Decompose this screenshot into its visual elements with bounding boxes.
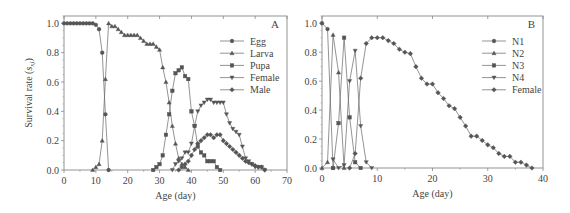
data-point-diamond-icon xyxy=(403,50,408,55)
x-tick-label: 0 xyxy=(320,173,325,184)
data-point-circle-icon xyxy=(97,27,101,31)
data-point-square-icon xyxy=(180,66,184,70)
legend-label: Female xyxy=(250,72,280,83)
series-group xyxy=(62,21,267,172)
series-n2 xyxy=(320,33,346,170)
legend-label: Egg xyxy=(250,36,266,47)
panel-label: A xyxy=(271,18,279,30)
data-point-circle-icon xyxy=(94,23,98,27)
legend-label: Male xyxy=(250,84,271,95)
y-tick-label: 0.4 xyxy=(305,105,318,116)
data-point-square-icon xyxy=(171,89,175,93)
data-point-circle-icon xyxy=(104,112,108,116)
data-point-square-icon xyxy=(158,162,162,166)
data-point-triangle-up-icon xyxy=(161,65,165,69)
data-point-square-icon xyxy=(164,133,168,137)
panel-label: B xyxy=(528,18,535,30)
chart-panel-a: 010203040506070Age (day)0.00.20.40.60.81… xyxy=(23,16,292,202)
data-point-square-icon xyxy=(161,154,165,158)
y-axis: 0.00.20.40.60.81.0 xyxy=(305,16,323,174)
figure-canvas: 010203040506070Age (day)0.00.20.40.60.81… xyxy=(0,0,570,213)
legend-label: N1 xyxy=(512,36,524,47)
data-point-triangle-up-icon xyxy=(107,21,111,25)
data-point-triangle-up-icon xyxy=(164,80,168,84)
legend-label: Female xyxy=(512,84,542,95)
y-tick-label: 0.2 xyxy=(305,134,318,145)
data-point-diamond-icon xyxy=(458,115,463,120)
x-tick-label: 50 xyxy=(218,175,228,186)
data-point-circle-icon xyxy=(100,51,104,55)
data-point-diamond-icon xyxy=(347,166,352,171)
data-point-diamond-icon xyxy=(380,35,385,40)
data-point-triangle-down-icon xyxy=(199,104,203,108)
data-point-triangle-up-icon xyxy=(173,142,177,146)
data-point-square-icon xyxy=(167,112,171,116)
legend-item-female: Female xyxy=(482,84,542,95)
data-point-triangle-down-icon xyxy=(331,158,335,162)
data-point-circle-icon xyxy=(326,27,330,31)
data-point-square-icon xyxy=(337,121,341,125)
legend-label: N2 xyxy=(512,48,524,59)
legend: EggLarvaPupaFemaleMale xyxy=(220,36,280,96)
series-pupa xyxy=(151,66,221,172)
x-axis-title: Age (day) xyxy=(155,190,195,202)
legend-label: N4 xyxy=(512,72,524,83)
data-point-triangle-down-icon xyxy=(237,133,241,137)
data-point-diamond-icon xyxy=(530,166,535,171)
series-egg xyxy=(62,21,110,171)
y-tick-label: 0.0 xyxy=(47,165,60,176)
legend-item-n4: N4 xyxy=(482,72,524,83)
legend-item-pupa: Pupa xyxy=(220,60,271,71)
data-point-square-icon xyxy=(359,166,363,170)
legend-square-icon xyxy=(492,64,496,68)
data-point-diamond-icon xyxy=(218,132,223,137)
data-point-triangle-down-icon xyxy=(240,145,244,149)
legend-label: Larva xyxy=(250,48,274,59)
data-point-diamond-icon xyxy=(375,35,380,40)
legend: N1N2N3N4Female xyxy=(482,36,542,96)
data-point-square-icon xyxy=(212,159,216,163)
data-point-diamond-icon xyxy=(189,153,194,158)
y-tick-label: 0.8 xyxy=(47,47,60,58)
legend-circle-icon xyxy=(492,39,496,43)
legend-square-icon xyxy=(230,64,234,68)
x-tick-label: 20 xyxy=(123,175,133,186)
legend-item-female: Female xyxy=(220,72,280,83)
x-tick-label: 20 xyxy=(428,173,438,184)
legend-item-n2: N2 xyxy=(482,48,524,59)
data-point-square-icon xyxy=(186,77,190,81)
data-point-square-icon xyxy=(218,168,222,172)
figure: 010203040506070Age (day)0.00.20.40.60.81… xyxy=(0,0,570,213)
legend-item-male: Male xyxy=(220,84,271,95)
data-point-triangle-up-icon xyxy=(100,139,104,143)
data-point-square-icon xyxy=(342,36,346,40)
series-female xyxy=(347,35,534,170)
legend-item-n3: N3 xyxy=(482,60,524,71)
data-point-diamond-icon xyxy=(469,134,474,139)
y-tick-label: 0.0 xyxy=(305,163,318,174)
x-axis-title: Age (day) xyxy=(412,188,452,200)
data-point-diamond-icon xyxy=(430,82,435,87)
y-tick-label: 0.6 xyxy=(305,76,318,87)
x-tick-label: 10 xyxy=(91,175,101,186)
data-point-diamond-icon xyxy=(358,76,363,81)
data-point-triangle-up-icon xyxy=(97,162,101,166)
x-tick-label: 40 xyxy=(538,173,548,184)
data-point-diamond-icon xyxy=(519,160,524,165)
x-tick-label: 30 xyxy=(483,173,493,184)
x-tick-label: 30 xyxy=(155,175,165,186)
data-point-square-icon xyxy=(348,116,352,120)
data-point-diamond-icon xyxy=(414,64,419,69)
data-point-triangle-up-icon xyxy=(103,77,107,81)
y-tick-label: 1.0 xyxy=(305,18,318,29)
data-point-diamond-icon xyxy=(524,163,529,168)
data-point-square-icon xyxy=(190,110,194,114)
data-point-square-icon xyxy=(202,154,206,158)
legend-item-egg: Egg xyxy=(220,36,266,47)
data-point-triangle-down-icon xyxy=(359,124,363,128)
series-larva xyxy=(91,21,191,171)
legend-label: Pupa xyxy=(250,60,271,71)
y-tick-label: 1.0 xyxy=(47,18,60,29)
data-point-triangle-up-icon xyxy=(170,124,174,128)
legend-circle-icon xyxy=(230,39,234,43)
